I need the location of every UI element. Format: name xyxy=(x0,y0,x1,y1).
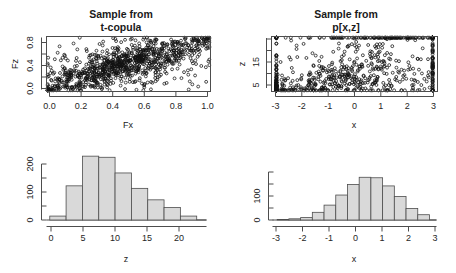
histogram-bar xyxy=(359,177,371,220)
scatter-joint-xtick-2: -1 xyxy=(324,101,332,111)
histogram-bar xyxy=(148,200,164,220)
histogram-bar xyxy=(336,195,348,220)
histogram-bar xyxy=(82,156,98,220)
scatter-point xyxy=(290,39,293,42)
scatter-point xyxy=(395,59,398,62)
scatter-point xyxy=(190,68,193,71)
scatter-point xyxy=(149,88,152,91)
scatter-copula-points xyxy=(46,36,211,92)
scatter-point xyxy=(183,71,186,74)
histogram-bar xyxy=(371,178,383,220)
histogram-bar xyxy=(289,219,301,220)
scatter-point xyxy=(101,50,104,53)
scatter-point xyxy=(383,54,386,57)
scatter-point xyxy=(138,45,141,48)
scatter-joint-xtick-0: -3 xyxy=(271,101,279,111)
scatter-point xyxy=(386,66,389,69)
scatter-point xyxy=(194,74,197,77)
scatter-point xyxy=(407,68,410,71)
scatter-joint-svg: Sample from p[x,z] 5 15 z xyxy=(228,0,456,140)
scatter-point xyxy=(314,54,317,57)
scatter-copula-xlabel: Fx xyxy=(123,120,133,130)
scatter-copula-xaxis: 0.0 0.2 0.4 0.6 0.8 1.0 Fx xyxy=(43,92,214,131)
scatter-point xyxy=(412,67,415,70)
scatter-point xyxy=(124,38,127,41)
scatter-point xyxy=(188,53,191,56)
histogram-bar xyxy=(301,218,313,220)
histogram-bar xyxy=(50,216,66,220)
hist-x-svg: 0 100 -3 -2 -1 0 1 2 3 x xyxy=(228,140,456,273)
histogram-bar xyxy=(383,186,395,220)
scatter-point xyxy=(320,55,323,58)
scatter-copula-svg: Sample from t-copula 0.0 0.4 0.8 Fz xyxy=(0,0,228,140)
scatter-point xyxy=(194,59,197,62)
scatter-point xyxy=(76,48,79,51)
panel-scatter-joint: Sample from p[x,z] 5 15 z xyxy=(228,0,456,140)
scatter-point xyxy=(288,56,291,59)
scatter-point xyxy=(186,69,189,72)
scatter-point xyxy=(191,83,194,86)
hist-x-ytick-0: 0 xyxy=(252,217,262,222)
scatter-point xyxy=(187,73,190,76)
scatter-point xyxy=(120,41,123,44)
scatter-point xyxy=(334,70,337,73)
panel-hist-x: 0 100 -3 -2 -1 0 1 2 3 x xyxy=(228,140,456,273)
scatter-point xyxy=(281,74,284,77)
histogram-bar xyxy=(131,188,147,220)
hist-z-bars xyxy=(47,156,207,220)
scatter-point xyxy=(176,67,179,70)
scatter-point xyxy=(305,56,308,59)
scatter-point xyxy=(354,50,357,53)
hist-x-xtick-4: 1 xyxy=(379,233,384,243)
hist-x-yaxis: 0 100 xyxy=(252,172,274,223)
hist-x-xlabel: x xyxy=(352,254,357,264)
scatter-joint-xtick-5: 2 xyxy=(405,101,410,111)
histogram-bar xyxy=(418,215,430,220)
scatter-point xyxy=(166,63,169,66)
scatter-point xyxy=(187,88,190,91)
scatter-point xyxy=(289,82,292,85)
scatter-point xyxy=(300,74,303,77)
scatter-point xyxy=(342,54,345,57)
scatter-point xyxy=(418,68,421,71)
scatter-point xyxy=(170,38,173,41)
scatter-point xyxy=(391,71,394,74)
scatter-point xyxy=(78,61,81,64)
scatter-point xyxy=(119,84,122,87)
scatter-point xyxy=(186,50,189,53)
histogram-bar xyxy=(277,219,289,220)
hist-x-xtick-6: 3 xyxy=(432,233,437,243)
hist-x-bars xyxy=(273,177,437,220)
hist-z-xaxis: 0 5 10 15 20 z xyxy=(47,227,207,265)
scatter-point xyxy=(419,58,422,61)
scatter-point xyxy=(180,77,183,80)
scatter-point xyxy=(428,86,431,89)
scatter-point xyxy=(367,64,370,67)
scatter-point xyxy=(319,80,322,83)
scatter-point xyxy=(356,57,359,60)
hist-z-xtick-4: 20 xyxy=(174,233,184,243)
scatter-point xyxy=(372,74,375,77)
hist-x-xtick-1: -2 xyxy=(298,233,306,243)
scatter-point xyxy=(47,56,50,59)
scatter-point xyxy=(173,77,176,80)
scatter-joint-yaxis: 5 15 z xyxy=(237,38,272,88)
scatter-copula-ytick-1: 0.4 xyxy=(25,59,35,72)
scatter-point xyxy=(190,44,193,47)
scatter-point xyxy=(96,62,99,65)
scatter-point xyxy=(124,81,127,84)
panel-hist-z: 0 100 200 0 5 10 15 20 z xyxy=(0,140,228,273)
scatter-joint-title-line2: p[x,z] xyxy=(332,21,359,33)
hist-z-ytick-1: 100 xyxy=(25,184,35,199)
histogram-bar xyxy=(66,186,82,220)
scatter-point xyxy=(398,60,401,63)
scatter-point xyxy=(191,54,194,57)
scatter-point xyxy=(358,44,361,47)
scatter-point xyxy=(332,86,335,89)
scatter-point xyxy=(152,45,155,48)
scatter-point xyxy=(130,43,133,46)
scatter-point xyxy=(420,72,423,75)
scatter-point xyxy=(355,40,358,43)
scatter-point xyxy=(389,53,392,56)
scatter-point xyxy=(135,88,138,91)
